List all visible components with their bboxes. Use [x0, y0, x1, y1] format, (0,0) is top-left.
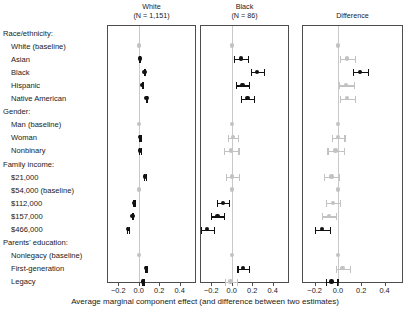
estimate-point — [143, 174, 147, 178]
estimate-marker — [108, 173, 195, 182]
confidence-interval-cap — [229, 200, 230, 207]
plot-panel-difference — [302, 25, 403, 283]
confidence-interval-cap — [354, 82, 355, 89]
estimate-marker — [108, 252, 195, 261]
estimate-point — [144, 96, 148, 100]
estimate-marker — [303, 134, 402, 143]
estimate-marker — [303, 42, 402, 51]
estimate-point — [336, 43, 340, 47]
estimate-point — [230, 253, 234, 257]
confidence-interval-cap — [264, 69, 265, 76]
estimate-marker — [108, 226, 195, 235]
confidence-interval-cap — [234, 56, 235, 63]
estimate-point — [240, 83, 244, 87]
estimate-marker — [201, 147, 288, 156]
estimate-marker — [201, 173, 288, 182]
confidence-interval-cap — [368, 69, 369, 76]
x-axis-tick-label: 0.4 — [379, 286, 389, 295]
confidence-interval-cap — [315, 227, 316, 234]
row-label-112-000: $112,000 — [0, 200, 113, 208]
row-label-white-baseline: White (baseline) — [0, 43, 113, 51]
estimate-point — [130, 214, 134, 218]
x-axis-tick-label: 0.4 — [268, 286, 278, 295]
estimate-marker — [201, 68, 288, 77]
confidence-interval-cap — [239, 174, 240, 181]
confidence-interval-cap — [332, 135, 333, 142]
estimate-point — [336, 253, 340, 257]
x-axis-tick-label: 0.0 — [134, 286, 144, 295]
row-label-asian: Asian — [0, 56, 113, 64]
estimate-marker — [201, 95, 288, 104]
confidence-interval-cap — [355, 56, 356, 63]
estimate-point — [333, 148, 337, 152]
panel-title-line1: White — [107, 2, 196, 11]
estimate-marker — [201, 252, 288, 261]
plot-panel-white — [107, 25, 196, 283]
confidence-interval-cap — [324, 174, 325, 181]
estimate-marker — [108, 55, 195, 64]
estimate-marker — [303, 121, 402, 130]
row-label-native-american: Native American — [0, 95, 113, 103]
confidence-interval-cap — [236, 82, 237, 89]
estimate-marker — [303, 147, 402, 156]
confidence-interval-cap — [350, 266, 351, 273]
confidence-interval-cap — [330, 227, 331, 234]
estimate-point — [230, 43, 234, 47]
estimate-marker — [108, 186, 195, 195]
estimate-marker — [108, 68, 195, 77]
confidence-interval-cap — [214, 227, 215, 234]
confidence-interval-cap — [327, 148, 328, 155]
confidence-interval-cap — [339, 82, 340, 89]
confidence-interval-cap — [339, 174, 340, 181]
estimate-marker — [303, 186, 402, 195]
confidence-interval-cap — [336, 213, 337, 220]
estimate-marker — [303, 95, 402, 104]
panel-title-line2: (N = 86) — [200, 11, 289, 20]
confidence-interval-cap — [228, 135, 229, 142]
estimate-point — [137, 43, 141, 47]
estimate-marker — [201, 226, 288, 235]
estimate-marker — [303, 81, 402, 90]
x-axis-tick-label: −0.2 — [307, 286, 322, 295]
estimate-marker — [303, 173, 402, 182]
confidence-interval-cap — [224, 148, 225, 155]
estimate-marker — [108, 199, 195, 208]
estimate-point — [336, 187, 340, 191]
estimate-marker — [108, 147, 195, 156]
estimate-marker — [303, 212, 402, 221]
row-label-family-income: Family income: — [0, 161, 105, 169]
panel-title-black: Black(N = 86) — [200, 2, 289, 20]
estimate-marker — [201, 42, 288, 51]
estimate-point — [329, 174, 333, 178]
confidence-interval-cap — [249, 266, 250, 273]
confidence-interval-cap — [344, 135, 345, 142]
x-axis-tick-label: 0.4 — [175, 286, 185, 295]
confidence-interval-cap — [249, 82, 250, 89]
estimate-marker — [108, 212, 195, 221]
estimate-marker — [303, 265, 402, 274]
confidence-interval-cap — [353, 69, 354, 76]
plot-area-difference — [303, 26, 402, 282]
estimate-marker — [108, 42, 195, 51]
estimate-point — [245, 96, 249, 100]
panel-title-line1: Difference — [302, 11, 403, 20]
confidence-interval-cap — [248, 56, 249, 63]
x-axis-tick-label: −0.2 — [111, 286, 126, 295]
row-label-black: Black — [0, 69, 113, 77]
confidence-interval-cap — [211, 213, 212, 220]
estimate-marker — [303, 226, 402, 235]
plot-area-white — [108, 26, 195, 282]
confidence-interval-cap — [226, 174, 227, 181]
estimate-marker — [201, 265, 288, 274]
row-label-157-000: $157,000 — [0, 213, 113, 221]
row-label-nonlegacy-baseline: Nonlegacy (baseline) — [0, 252, 113, 260]
estimate-point — [239, 56, 243, 60]
x-axis-difference: −0.20.00.20.4 — [302, 283, 403, 297]
x-axis-tick-label: 0.2 — [154, 286, 164, 295]
row-label-21-000: $21,000 — [0, 174, 113, 182]
estimate-marker — [201, 186, 288, 195]
confidence-interval-cap — [322, 213, 323, 220]
confidence-interval-cap — [340, 96, 341, 103]
estimate-marker — [108, 265, 195, 274]
x-axis-tick-label: 0.0 — [227, 286, 237, 295]
